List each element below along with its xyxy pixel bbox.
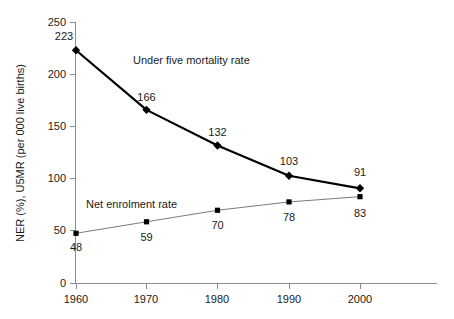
x-tick-label-1980: 1980 — [205, 293, 229, 305]
series-point-labels-under-five-mortality-rate: 22316613210391 — [55, 30, 366, 178]
point-label-ner-1990: 78 — [283, 211, 295, 223]
point-label-u5mr-1970: 166 — [137, 91, 155, 103]
point-label-ner-1970: 59 — [140, 231, 152, 243]
y-tick-label-150: 150 — [48, 120, 66, 132]
annotation-net-enrolment-rate: Net enrolment rate — [86, 198, 177, 210]
chart-container: 250 200 150 100 50 0 1960 1970 1980 1990… — [0, 0, 454, 319]
point-label-u5mr-1990: 103 — [280, 155, 298, 167]
point-label-ner-1960: 48 — [70, 241, 82, 253]
point-label-u5mr-1980: 132 — [208, 126, 226, 138]
series-point-labels-net-enrolment-rate: 4859707883 — [70, 207, 366, 254]
y-tick-label-50: 50 — [54, 224, 66, 236]
x-tick-label-2000: 2000 — [348, 293, 372, 305]
x-tick-label-1970: 1970 — [134, 293, 158, 305]
series-line-under-five-mortality-rate — [76, 50, 360, 188]
x-axis-ticks — [77, 284, 361, 290]
point-label-ner-2000: 83 — [354, 207, 366, 219]
x-tick-label-1960: 1960 — [64, 293, 88, 305]
line-chart: 250 200 150 100 50 0 1960 1970 1980 1990… — [0, 0, 454, 319]
point-label-ner-1980: 70 — [211, 219, 223, 231]
annotation-under-five-mortality-rate: Under five mortality rate — [133, 54, 250, 66]
point-label-u5mr-2000: 91 — [354, 166, 366, 178]
point-label-u5mr-1960: 223 — [55, 30, 73, 42]
y-tick-label-0: 0 — [60, 277, 66, 289]
x-tick-label-1990: 1990 — [277, 293, 301, 305]
y-tick-label-200: 200 — [48, 68, 66, 80]
y-tick-label-100: 100 — [48, 172, 66, 184]
y-tick-label-250: 250 — [48, 16, 66, 28]
y-axis-title: NER (%), U5MR (per 000 live births) — [14, 64, 26, 242]
series-markers-under-five-mortality-rate — [72, 46, 364, 192]
